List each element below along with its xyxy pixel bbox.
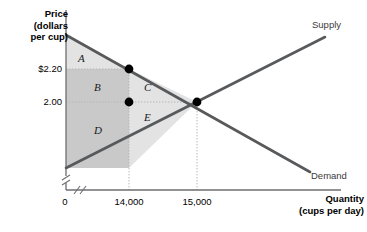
region-e-shape [129,102,197,168]
region-label-e: E [144,111,151,123]
y-axis-tick-label-220: $2.20 [10,63,62,74]
price-axis-title-line1: Price [45,8,68,19]
x-axis-tick-label-14000: 14,000 [103,196,155,207]
equilibrium-point [193,98,202,107]
supply-point-at-14000 [125,98,134,107]
quantity-axis-title-line2: (cups per day) [299,205,364,216]
price-axis-title-line3: per cup) [31,31,68,42]
demand-point-at-14000 [125,65,134,74]
quantity-axis-title: Quantity(cups per day) [252,193,364,216]
region-label-d: D [94,124,102,136]
quantity-axis-title-line1: Quantity [325,193,364,204]
region-label-c: C [144,81,151,93]
x-axis-tick-label-15000: 15,000 [171,196,223,207]
region-label-a: A [78,52,85,64]
price-axis-title: Price(dollarsper cup) [6,8,68,43]
region-c-shape [129,69,197,102]
supply-curve-label: Supply [312,19,341,30]
y-axis-tick-label-200: 2.00 [10,96,62,107]
x-axis-tick-label-origin: 0 [56,196,74,207]
supply-demand-chart: Price(dollarsper cup) Quantity(cups per … [0,0,367,232]
region-label-b: B [94,81,101,93]
demand-curve-label: Demand [311,170,347,181]
price-axis-title-line2: (dollars [34,20,68,31]
